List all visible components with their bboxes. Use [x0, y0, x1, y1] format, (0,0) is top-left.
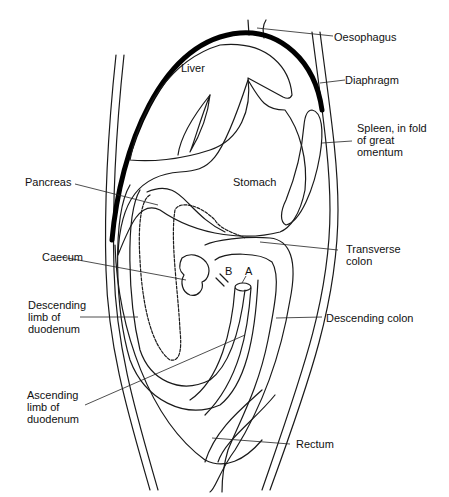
label-marker-b: B — [225, 265, 232, 277]
body-wall-right — [262, 32, 338, 490]
rectum — [205, 390, 275, 462]
label-pancreas: Pancreas — [25, 176, 71, 188]
duodenal-loop — [130, 190, 245, 386]
label-transverse-colon: Transverse colon — [346, 243, 401, 267]
label-spleen: Spleen, in fold of great omentum — [357, 122, 427, 158]
label-stomach: Stomach — [233, 176, 276, 188]
label-descending-limb: Descending limb of duodenum — [28, 299, 86, 335]
spleen — [282, 110, 322, 225]
liver — [130, 44, 292, 160]
label-diaphragm: Diaphragm — [345, 74, 399, 86]
body-wall-left — [105, 55, 158, 490]
label-liver: Liver — [181, 62, 205, 74]
caecum — [180, 255, 209, 296]
label-ascending-limb: Ascending limb of duodenum — [27, 389, 79, 425]
tube-a — [190, 283, 251, 415]
label-marker-a: A — [245, 265, 252, 277]
label-rectum: Rectum — [296, 438, 334, 450]
diaphragm — [112, 33, 322, 240]
label-oesophagus: Oesophagus — [334, 31, 396, 43]
label-caecum: Caecum — [42, 251, 83, 263]
label-descending-colon: Descending colon — [326, 312, 413, 324]
